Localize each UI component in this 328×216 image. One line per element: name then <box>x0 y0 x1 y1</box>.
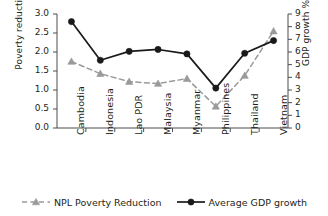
right-tick-label: 8 <box>295 21 311 31</box>
data-point-philippines <box>213 85 219 91</box>
chart-container: Poverty reduction GDP growth % 0.00.51.0… <box>0 0 328 216</box>
right-tick-label: 2 <box>295 97 311 107</box>
category-label-philippines: Philippines <box>220 83 231 135</box>
data-point-cambodia <box>68 58 75 64</box>
data-point-malaysia <box>155 46 161 52</box>
data-point-cambodia <box>68 19 74 25</box>
right-tick-label: 9 <box>295 8 311 18</box>
left-tick-label: 2.0 <box>23 46 49 56</box>
data-point-myanmar <box>184 51 190 57</box>
right-tick-label: 5 <box>295 59 311 69</box>
legend-label: NPL Poverty Reduction <box>54 197 162 208</box>
right-tick-label: 6 <box>295 46 311 56</box>
left-tick-label: 1.0 <box>23 84 49 94</box>
right-tick-label: 0 <box>295 122 311 132</box>
right-tick-label: 1 <box>295 109 311 119</box>
legend-circle-marker-icon <box>176 196 206 208</box>
data-point-thailand <box>242 50 248 56</box>
legend-label: Average GDP growth <box>209 197 308 208</box>
category-label-cambodia: Cambodia <box>75 86 86 135</box>
category-label-thailand: Thailand <box>249 93 260 135</box>
data-point-lao-pdr <box>126 48 132 54</box>
right-tick-label: 7 <box>295 33 311 43</box>
left-tick-label: 3.0 <box>23 8 49 18</box>
right-tick-label: 3 <box>295 84 311 94</box>
category-label-lao-pdr: Lao PDR <box>133 95 144 135</box>
left-tick-label: 0.5 <box>23 103 49 113</box>
category-label-myanmar: Myanmar <box>191 90 202 135</box>
right-tick-label: 4 <box>295 71 311 81</box>
legend-triangle-marker-icon <box>21 196 51 208</box>
legend-item-npl-poverty-reduction[interactable]: NPL Poverty Reduction <box>21 196 162 208</box>
legend-marker <box>187 199 193 205</box>
chart-legend: NPL Poverty ReductionAverage GDP growth <box>0 192 328 212</box>
data-point-vietnam <box>270 28 277 34</box>
data-point-indonesia <box>97 57 103 63</box>
category-label-vietnam: Vietnam <box>278 95 289 135</box>
left-tick-label: 0.0 <box>23 122 49 132</box>
legend-item-average-gdp-growth[interactable]: Average GDP growth <box>176 196 308 208</box>
data-point-myanmar <box>183 75 190 81</box>
category-label-malaysia: Malaysia <box>162 93 173 135</box>
left-axis-ticks <box>53 14 57 128</box>
left-tick-label: 1.5 <box>23 65 49 75</box>
left-tick-label: 2.5 <box>23 27 49 37</box>
series-average-gdp-growth <box>68 19 276 92</box>
data-point-vietnam <box>270 38 276 44</box>
category-label-indonesia: Indonesia <box>104 88 115 135</box>
